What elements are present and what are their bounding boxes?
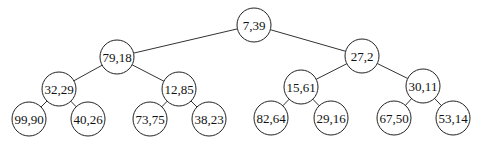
node-label: 15,61 <box>286 80 315 95</box>
edges-layer <box>41 29 441 107</box>
tree-node: 30,11 <box>406 69 440 103</box>
tree-edge <box>41 101 47 107</box>
tree-node: 12,85 <box>162 72 196 106</box>
tree-node: 53,14 <box>436 101 470 135</box>
tree-edge <box>377 64 407 79</box>
tree-node: 27,2 <box>345 39 379 73</box>
tree-node: 29,16 <box>314 101 348 135</box>
node-label: 7,39 <box>243 18 266 33</box>
node-label: 82,64 <box>256 111 286 126</box>
tree-node: 7,39 <box>237 8 271 42</box>
tree-edge <box>270 30 345 52</box>
tree-edge <box>191 101 197 107</box>
tree-edge <box>132 65 164 81</box>
tree-node: 82,64 <box>254 101 288 135</box>
node-label: 27,2 <box>351 49 374 64</box>
tree-edge <box>162 101 167 107</box>
binary-tree-diagram: 7,3979,1827,232,2912,8515,6130,1199,9040… <box>0 0 485 153</box>
node-label: 12,85 <box>164 82 193 97</box>
tree-edge <box>405 99 411 106</box>
tree-edge <box>71 101 76 107</box>
node-label: 53,14 <box>438 111 468 126</box>
tree-node: 73,75 <box>133 102 167 136</box>
node-label: 67,50 <box>379 111 408 126</box>
node-label: 32,29 <box>44 82 73 97</box>
tree-edge <box>435 98 442 105</box>
tree-edge <box>316 64 347 80</box>
node-label: 38,23 <box>194 112 223 127</box>
node-label: 30,11 <box>409 79 438 94</box>
node-label: 73,75 <box>135 112 164 127</box>
tree-edge <box>313 99 319 106</box>
node-label: 40,26 <box>73 112 103 127</box>
tree-node: 67,50 <box>377 101 411 135</box>
tree-node: 40,26 <box>71 102 105 136</box>
tree-edge <box>74 65 102 81</box>
tree-edge <box>134 29 238 53</box>
tree-node: 38,23 <box>192 102 226 136</box>
node-label: 99,90 <box>14 112 43 127</box>
nodes-layer: 7,3979,1827,232,2912,8515,6130,1199,9040… <box>12 8 470 136</box>
tree-node: 99,90 <box>12 102 46 136</box>
tree-node: 79,18 <box>100 40 134 74</box>
tree-node: 32,29 <box>42 72 76 106</box>
node-label: 79,18 <box>102 50 131 65</box>
node-label: 29,16 <box>316 111 346 126</box>
tree-edge <box>283 99 289 106</box>
tree-node: 15,61 <box>284 70 318 104</box>
